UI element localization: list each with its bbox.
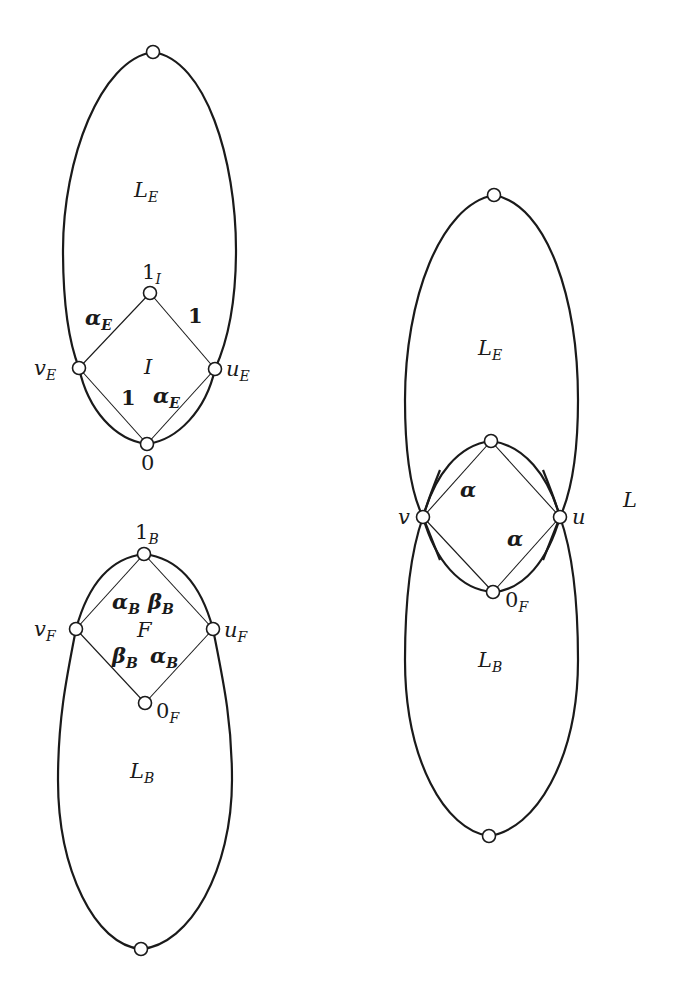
node-uE <box>209 363 222 376</box>
node-mid-top <box>485 435 498 448</box>
lower-ellipse-right <box>489 470 578 836</box>
edge-top-u <box>491 441 560 517</box>
label-u: u <box>572 505 586 529</box>
outer-boundary-left <box>58 629 141 949</box>
node-0F <box>139 697 152 710</box>
upper-ellipse-left <box>405 195 494 560</box>
label-I: I <box>143 355 153 379</box>
label-vE: vE <box>34 356 56 383</box>
label-0F: 0F <box>505 588 529 615</box>
edge-label-alpha-upper: α <box>460 477 476 502</box>
label-L: L <box>622 488 637 512</box>
node-vF <box>70 623 83 636</box>
node-1B <box>138 548 151 561</box>
node-vE <box>73 362 86 375</box>
edge-label-alphaE-lower: αE <box>153 383 180 411</box>
label-LB: LB <box>129 759 154 786</box>
figure-top-left: LE 1I I vE uE 0 αE 1 1 αE <box>34 46 250 476</box>
node-v <box>417 511 430 524</box>
lattice-diagram: LE 1I I vE uE 0 αE 1 1 αE 1B F vF uF 0F <box>0 0 682 996</box>
figure-right: LE LB v u 0F L α α <box>398 189 637 843</box>
node-u <box>554 511 567 524</box>
edge-label-betaB-lower: βB <box>111 643 138 671</box>
figure-bottom-left: 1B F vF uF 0F LB αB βB βB αB <box>34 520 249 956</box>
edge-label-1-upper: 1 <box>188 303 203 328</box>
edge-label-alpha-lower: α <box>507 526 523 551</box>
label-1B: 1B <box>135 520 159 547</box>
node-0F <box>487 586 500 599</box>
label-v: v <box>398 505 410 529</box>
edge-v-0F <box>423 517 493 592</box>
node-1I <box>144 287 157 300</box>
label-LB: LB <box>477 648 502 675</box>
edge-label-1-lower: 1 <box>121 385 136 410</box>
node-0 <box>141 438 154 451</box>
label-uE: uE <box>226 357 250 384</box>
edge-label-alphaB-upper: αB <box>112 589 140 617</box>
outer-boundary-right <box>141 629 232 949</box>
lower-ellipse-left <box>405 470 489 836</box>
label-LE: LE <box>477 336 502 363</box>
node-bottom <box>483 830 496 843</box>
edge-label-alphaE-upper: αE <box>85 305 112 333</box>
label-F: F <box>136 618 153 642</box>
edge-top-v <box>423 441 491 517</box>
upper-ellipse-right <box>494 195 578 560</box>
label-1I: 1I <box>142 260 161 287</box>
edge-vE-0 <box>79 368 147 444</box>
edge-label-betaB-upper: βB <box>147 589 174 617</box>
edge-1I-uE <box>150 293 215 369</box>
label-uF: uF <box>224 618 249 645</box>
label-vF: vF <box>34 617 57 644</box>
label-LE: LE <box>133 178 158 205</box>
node-uF <box>207 623 220 636</box>
label-0F: 0F <box>156 699 180 726</box>
node-top <box>147 46 160 59</box>
edge-label-alphaB-lower: αB <box>150 643 178 671</box>
node-bottom <box>135 943 148 956</box>
edge-u-0F <box>493 517 560 592</box>
node-top <box>488 189 501 202</box>
edge-1B-vF <box>76 554 144 629</box>
label-0: 0 <box>141 451 154 475</box>
